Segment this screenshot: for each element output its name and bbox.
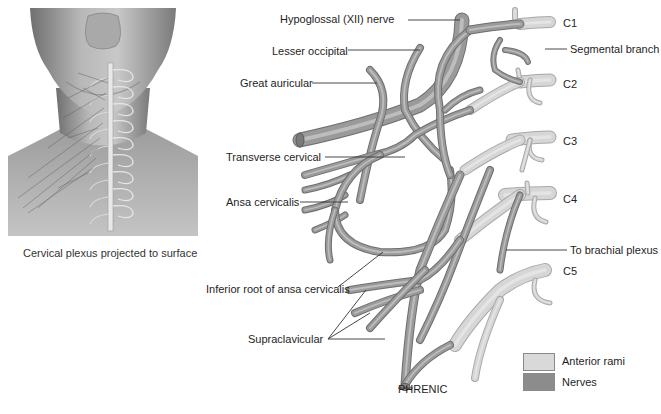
ramus-c1 (520, 22, 550, 24)
label-inferior-root-ansa-cervicalis: Inferior root of ansa cervicalis (206, 283, 350, 296)
label-c2: C2 (563, 78, 577, 91)
leader-supraclavicular-2 (328, 313, 370, 339)
ramus-c3-trunk (465, 140, 520, 170)
label-supraclavicular: Supraclavicular (248, 333, 323, 346)
legend-swatch-anterior-rami (523, 353, 555, 371)
c1-nerve-trunk (470, 24, 520, 30)
great-auricular-nerve (360, 70, 383, 200)
label-segmental-branch: Segmental branch (570, 43, 659, 56)
legend-swatch-nerves (523, 373, 555, 391)
leader-inferior-root (338, 252, 383, 287)
label-c1: C1 (563, 17, 577, 30)
label-transverse-cervical: Transverse cervical (226, 151, 321, 164)
ramus-c5-branch (534, 280, 550, 303)
ramus-c2-trunk (470, 82, 520, 110)
ramus-c4-branch (534, 198, 546, 222)
label-great-auricular: Great auricular (240, 77, 313, 90)
label-to-brachial-plexus: To brachial plexus (570, 244, 658, 257)
segmental-branch (505, 50, 528, 62)
hypoglossal-cut-end (296, 133, 304, 147)
label-hypoglossal-nerve: Hypoglossal (XII) nerve (280, 13, 394, 26)
label-c4: C4 (563, 193, 577, 206)
label-lesser-occipital: Lesser occipital (272, 45, 348, 58)
ansa-branch-low (328, 210, 335, 260)
label-phrenic: PHRENIC (398, 383, 448, 396)
label-ansa-cervicalis: Ansa cervicalis (226, 196, 299, 209)
segmental-loop-1 (493, 40, 520, 82)
cervical-plexus-diagram (0, 0, 661, 414)
legend-label-anterior-rami: Anterior rami (562, 355, 625, 368)
ramus-c4-dorsal (527, 183, 528, 193)
label-c5: C5 (563, 265, 577, 278)
label-c3: C3 (563, 135, 577, 148)
legend-label-nerves: Nerves (562, 376, 597, 389)
